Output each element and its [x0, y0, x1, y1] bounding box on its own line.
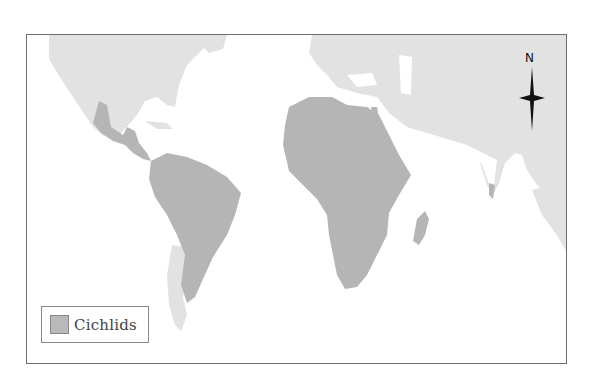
legend-swatch-cichlids [50, 315, 69, 334]
map-legend: Cichlids [41, 306, 149, 343]
north-arrow-icon [517, 51, 547, 133]
compass-rose: N [517, 51, 547, 133]
legend-label-cichlids: Cichlids [74, 316, 137, 334]
